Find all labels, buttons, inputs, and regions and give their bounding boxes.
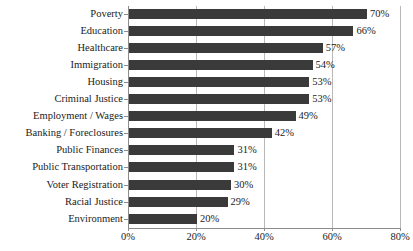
category-label: Poverty	[0, 9, 123, 20]
bar-row: Public Transportation31%	[0, 160, 413, 176]
bar	[129, 145, 234, 155]
bar-row: Housing53%	[0, 74, 413, 90]
bar	[129, 128, 272, 138]
category-label: Immigration	[0, 60, 123, 71]
y-axis-tick-mark	[124, 48, 128, 49]
bar-row: Education66%	[0, 23, 413, 39]
bar	[129, 111, 296, 121]
bar	[129, 180, 231, 190]
bar-value-label: 29%	[231, 196, 250, 207]
bar-row: Criminal Justice53%	[0, 91, 413, 107]
category-label: Housing	[0, 77, 123, 88]
category-label: Public Finances	[0, 145, 123, 156]
bar-value-label: 31%	[237, 162, 256, 173]
y-axis-tick-mark	[124, 99, 128, 100]
bar-value-label: 53%	[312, 77, 331, 88]
bar-value-label: 20%	[200, 213, 219, 224]
bar-row: Environment20%	[0, 211, 413, 227]
x-axis-tick-mark	[264, 228, 265, 231]
x-axis-tick-mark	[128, 228, 129, 231]
y-axis-tick-mark	[124, 65, 128, 66]
bar-value-label: 66%	[356, 26, 375, 37]
bar-value-label: 49%	[299, 111, 318, 122]
bar-row: Poverty70%	[0, 6, 413, 22]
bar	[129, 94, 309, 104]
x-axis-tick-labels: 0%20%40%60%80%	[0, 231, 413, 247]
y-axis-tick-mark	[124, 14, 128, 15]
y-axis-tick-mark	[124, 31, 128, 32]
bar-value-label: 42%	[275, 128, 294, 139]
bar-row: Voter Registration30%	[0, 177, 413, 193]
x-axis-tick-label: 20%	[186, 231, 205, 242]
bar	[129, 26, 353, 36]
y-axis-tick-mark	[124, 167, 128, 168]
x-axis-tick-label: 40%	[254, 231, 273, 242]
bar	[129, 60, 313, 70]
y-axis-tick-mark	[124, 150, 128, 151]
bar-row: Healthcare57%	[0, 40, 413, 56]
bar-value-label: 31%	[237, 145, 256, 156]
y-axis-tick-mark	[124, 202, 128, 203]
bar-value-label: 30%	[234, 179, 253, 190]
category-label: Voter Registration	[0, 179, 123, 190]
bar	[129, 77, 309, 87]
y-axis-tick-mark	[124, 82, 128, 83]
category-label: Criminal Justice	[0, 94, 123, 105]
y-axis-tick-mark	[124, 133, 128, 134]
category-label: Employment / Wages	[0, 111, 123, 122]
category-label: Environment	[0, 213, 123, 224]
x-axis-tick-mark	[400, 228, 401, 231]
y-axis-tick-mark	[124, 116, 128, 117]
bar-chart: · · ··· · ·· · · ··· · · ·· Poverty70%Ed…	[0, 0, 413, 251]
bar-value-label: 53%	[312, 94, 331, 105]
x-axis-tick-label: 80%	[390, 231, 409, 242]
bar-row: Banking / Foreclosures42%	[0, 126, 413, 142]
category-label: Banking / Foreclosures	[0, 128, 123, 139]
bar-row: Immigration54%	[0, 57, 413, 73]
bar-value-label: 70%	[370, 9, 389, 20]
bar-row: Racial Justice29%	[0, 194, 413, 210]
y-axis-tick-mark	[124, 185, 128, 186]
bar-value-label: 57%	[326, 43, 345, 54]
x-axis-tick-mark	[332, 228, 333, 231]
x-axis-tick-mark	[196, 228, 197, 231]
bar-row: Public Finances31%	[0, 143, 413, 159]
category-label: Racial Justice	[0, 196, 123, 207]
bar	[129, 43, 323, 53]
category-label: Education	[0, 26, 123, 37]
cut-off-title-remnant: · · ··· · ·· · · ··· · · ··	[30, 0, 290, 3]
bar	[129, 197, 228, 207]
bar-rows: Poverty70%Education66%Healthcare57%Immig…	[0, 6, 413, 228]
x-axis-tick-label: 0%	[121, 231, 135, 242]
bar-value-label: 54%	[316, 60, 335, 71]
category-label: Public Transportation	[0, 162, 123, 173]
bar	[129, 162, 234, 172]
bar	[129, 9, 367, 19]
y-axis-tick-mark	[124, 219, 128, 220]
bar	[129, 214, 197, 224]
x-axis-tick-label: 60%	[322, 231, 341, 242]
category-label: Healthcare	[0, 43, 123, 54]
bar-row: Employment / Wages49%	[0, 108, 413, 124]
